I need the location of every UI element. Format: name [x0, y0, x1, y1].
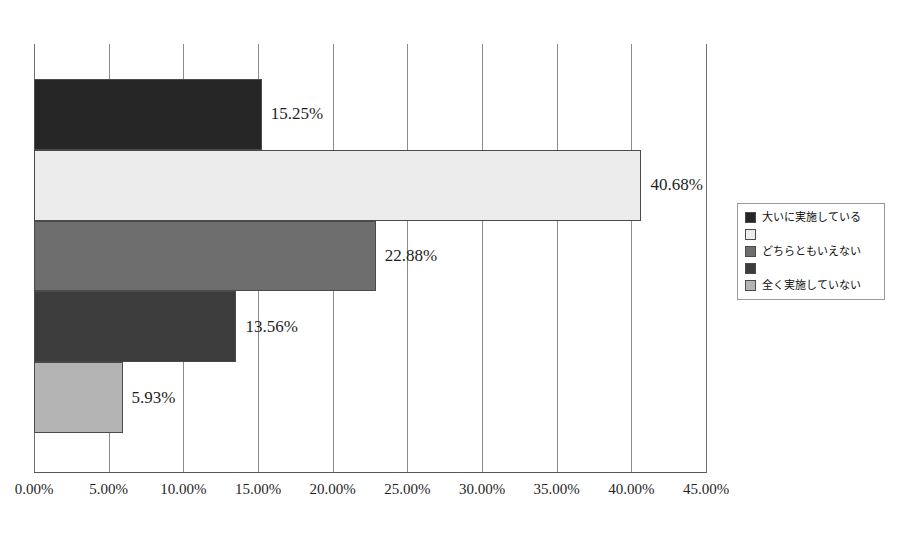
x-tick-label: 25.00%: [384, 482, 430, 497]
bar-value-label: 5.93%: [132, 389, 176, 406]
legend-item[interactable]: [745, 226, 878, 243]
bar-value-label: 15.25%: [271, 105, 323, 122]
plot-area: 15.25%40.68%22.88%13.56%5.93%: [34, 44, 706, 473]
bar[interactable]: [34, 150, 641, 221]
legend-item[interactable]: [745, 260, 878, 277]
gridline: [706, 44, 707, 473]
legend-item[interactable]: どちらともいえない: [745, 243, 878, 260]
x-tick-label: 40.00%: [608, 482, 654, 497]
x-tick-label: 30.00%: [459, 482, 505, 497]
legend-swatch-icon: [745, 212, 756, 223]
bar-value-label: 13.56%: [245, 318, 297, 335]
x-tick-label: 15.00%: [235, 482, 281, 497]
x-axis-baseline: [34, 472, 706, 473]
bar[interactable]: [34, 291, 236, 362]
x-tick-label: 35.00%: [534, 482, 580, 497]
x-tick-label: 0.00%: [15, 482, 54, 497]
legend-label: 大いに実施している: [762, 212, 861, 223]
legend-item[interactable]: 大いに実施している: [745, 209, 878, 226]
bar-value-label: 22.88%: [385, 247, 437, 264]
legend-swatch-icon: [745, 246, 756, 257]
bar-row: [34, 221, 706, 292]
bar[interactable]: [34, 362, 123, 433]
chart-legend: 大いに実施しているどちらともいえない全く実施していない: [737, 203, 885, 300]
legend-item[interactable]: 全く実施していない: [745, 277, 878, 294]
bar-chart: 15.25%40.68%22.88%13.56%5.93% 0.00%5.00%…: [0, 0, 920, 533]
x-tick-label: 20.00%: [310, 482, 356, 497]
legend-items: 大いに実施しているどちらともいえない全く実施していない: [745, 209, 878, 294]
bar-row: [34, 79, 706, 150]
legend-label: どちらともいえない: [762, 246, 861, 257]
legend-label: 全く実施していない: [762, 280, 861, 291]
x-tick-label: 45.00%: [683, 482, 729, 497]
bars-layer: 15.25%40.68%22.88%13.56%5.93%: [34, 44, 706, 473]
bar-row: [34, 291, 706, 362]
bar-value-label: 40.68%: [650, 176, 702, 193]
x-tick-label: 5.00%: [89, 482, 128, 497]
legend-swatch-icon: [745, 229, 756, 240]
bar[interactable]: [34, 221, 376, 292]
x-tick-label: 10.00%: [160, 482, 206, 497]
bar-row: [34, 150, 706, 221]
bar[interactable]: [34, 79, 262, 150]
legend-swatch-icon: [745, 280, 756, 291]
legend-swatch-icon: [745, 263, 756, 274]
